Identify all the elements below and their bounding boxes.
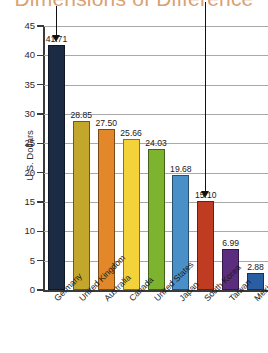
y-axis-tick-label: 10	[9, 225, 35, 236]
y-axis-tick	[37, 201, 44, 203]
gridline	[44, 26, 268, 27]
page-title: Dimensions of Difference	[14, 0, 253, 11]
chart-root: Dimensions of Difference 051015202530354…	[0, 0, 268, 353]
y-axis-tick	[37, 55, 44, 57]
y-axis-tick	[37, 231, 44, 233]
y-axis-tick	[37, 113, 44, 115]
y-axis-tick-label: 40	[9, 49, 35, 60]
arrow-south-korea-head	[201, 191, 209, 198]
y-axis-tick-label: 5	[9, 255, 35, 266]
y-axis-tick	[37, 260, 44, 262]
bar-value-label: 27.50	[89, 118, 123, 128]
bar-value-label: 25.66	[114, 128, 148, 138]
y-axis-title: U.S. Dollars	[24, 111, 35, 201]
y-axis-tick-label: 45	[9, 20, 35, 31]
y-axis-tick-label: 35	[9, 79, 35, 90]
bar-united-kingdom[interactable]	[73, 121, 90, 290]
y-axis-tick	[37, 289, 44, 291]
bar-united-states[interactable]	[148, 149, 165, 290]
y-axis-tick-label: 0	[9, 284, 35, 295]
y-axis-tick	[37, 25, 44, 27]
bar-value-label: 19.68	[164, 164, 198, 174]
bar-germany[interactable]	[48, 45, 65, 290]
arrow-south-korea-line	[205, 2, 206, 192]
y-axis-tick	[37, 84, 44, 86]
bar-value-label: 2.88	[239, 262, 268, 272]
gridline	[44, 85, 268, 86]
plot-area	[44, 26, 268, 290]
bar-canada[interactable]	[123, 139, 140, 290]
chart-title-clipped: Dimensions of Difference	[0, 0, 268, 13]
bar-south-korea[interactable]	[197, 201, 214, 290]
bar-value-label: 6.99	[214, 238, 248, 248]
y-axis-tick	[37, 172, 44, 174]
arrow-germany-head	[52, 35, 60, 42]
arrow-germany-line	[56, 6, 57, 36]
gridline	[44, 55, 268, 56]
bar-value-label: 24.03	[139, 138, 173, 148]
y-axis-tick	[37, 143, 44, 145]
